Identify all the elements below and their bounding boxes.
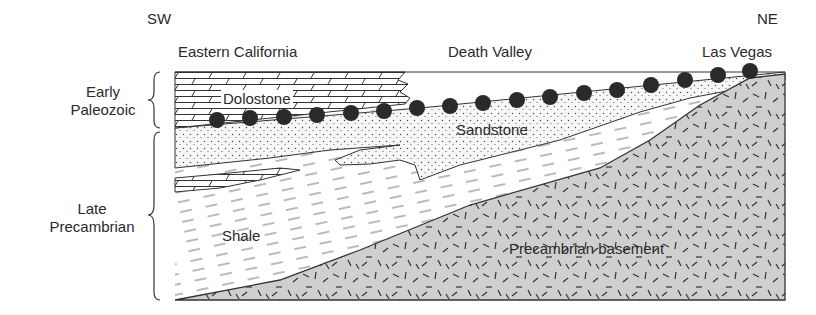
cross-section-diagram (0, 0, 816, 315)
unit-label-basement: Precambrian basement (509, 240, 664, 258)
unit-label-shale: Shale (222, 227, 260, 245)
unit-label-dolostone: Dolostone (221, 90, 293, 108)
brace-late-precambrian (148, 132, 160, 300)
unit-label-sandstone: Sandstone (456, 121, 528, 139)
brace-early-paleozoic (148, 72, 160, 128)
